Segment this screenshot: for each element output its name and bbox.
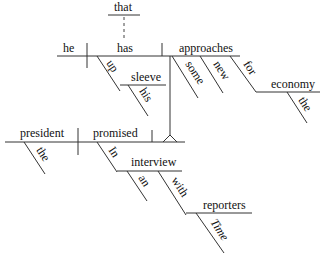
word-he: he <box>63 41 74 55</box>
word-in: In <box>105 144 122 160</box>
word-up: up <box>103 57 121 75</box>
word-an: an <box>135 172 153 189</box>
word-that: that <box>114 0 133 14</box>
word-approaches: approaches <box>179 41 233 55</box>
word-sleeve: sleeve <box>131 70 161 84</box>
word-interview: interview <box>131 155 177 169</box>
word-the-economy: the <box>295 94 315 114</box>
word-economy: economy <box>271 77 315 91</box>
word-time: Time <box>207 216 232 244</box>
word-with: with <box>168 174 191 200</box>
word-his: his <box>136 85 156 105</box>
sentence-diagram: that he has approaches up sleeve his som… <box>0 0 322 253</box>
word-president: president <box>20 126 65 140</box>
word-reporters: reporters <box>203 198 246 212</box>
word-has: has <box>117 41 133 55</box>
word-promised: promised <box>93 126 138 140</box>
clause-pedestal <box>163 135 177 142</box>
